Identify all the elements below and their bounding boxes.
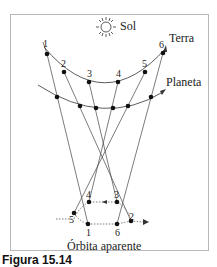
apparent-pos-5: 5 [69,215,74,225]
planet-label: Planeta [166,76,201,88]
figure-caption: Figura 15.14 [2,253,72,267]
earth-pos-5: 5 [142,59,147,69]
earth-pos-2: 2 [61,59,66,69]
earth-pos-3: 3 [87,69,92,79]
apparent-pos-4: 4 [86,190,91,200]
sun-icon [96,17,116,37]
apparent-pos-2: 2 [129,212,134,222]
apparent-pos-6: 6 [115,228,120,238]
sight-lines [43,42,163,224]
apparent-pos-1: 1 [86,228,91,238]
sun-label: Sol [120,20,136,32]
earth-pos-1: 1 [43,39,48,49]
earth-label: Terra [169,32,194,44]
apparent-orbit-label: Órbita aparente [67,240,141,252]
earth-pos-4: 4 [116,69,121,79]
apparent-pos-3: 3 [114,190,119,200]
earth-pos-6: 6 [159,40,164,50]
